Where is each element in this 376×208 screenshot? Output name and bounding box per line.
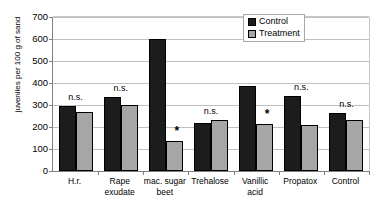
- legend-item[interactable]: Control: [248, 17, 300, 26]
- x-tick-mark: [234, 171, 235, 175]
- y-axis-tick-labels: 7006005004003002001000: [16, 0, 48, 208]
- bar-control: [284, 96, 301, 171]
- x-tick-mark: [188, 171, 189, 175]
- bar-chart: juveniles per 100 g of sand 700600500400…: [0, 0, 376, 208]
- legend-swatch-icon: [248, 30, 256, 38]
- bar-control: [59, 106, 76, 171]
- bar-treatment: [211, 120, 228, 171]
- bar-group: *: [143, 17, 188, 171]
- x-tick-mark: [369, 171, 370, 175]
- not-significant-label: n.s.: [324, 100, 369, 109]
- x-axis-tick-labels: H.r.Rape exudatemac. sugar beetTrehalose…: [52, 176, 368, 198]
- not-significant-label: n.s.: [279, 83, 324, 92]
- bar-treatment: [76, 112, 93, 171]
- y-tick-mark: [49, 17, 53, 18]
- x-tick-mark: [98, 171, 99, 175]
- bar-control: [149, 39, 166, 171]
- x-tick-label: mac. sugar beet: [142, 176, 187, 198]
- x-tick-label: Propatox: [278, 176, 323, 198]
- y-tick-mark: [49, 149, 53, 150]
- y-tick-label: 100: [18, 144, 48, 154]
- bar-group: n.s.: [53, 17, 98, 171]
- y-tick-mark: [49, 83, 53, 84]
- y-tick-label: 700: [18, 12, 48, 22]
- y-tick-mark: [49, 39, 53, 40]
- bar-group: n.s.: [188, 17, 233, 171]
- y-tick-label: 500: [18, 56, 48, 66]
- x-tick-label: Control: [323, 176, 368, 198]
- bar-control: [329, 113, 346, 171]
- legend-label: Treatment: [259, 29, 300, 38]
- legend-item[interactable]: Treatment: [248, 29, 300, 38]
- y-tick-label: 400: [18, 78, 48, 88]
- x-tick-label: Rape exudate: [97, 176, 142, 198]
- bar-treatment: [256, 124, 273, 171]
- bar-treatment: [301, 125, 318, 171]
- bar-treatment: [121, 105, 138, 171]
- not-significant-label: n.s.: [53, 93, 98, 102]
- x-tick-mark: [324, 171, 325, 175]
- y-tick-mark: [49, 127, 53, 128]
- y-tick-label: 300: [18, 100, 48, 110]
- x-tick-mark: [143, 171, 144, 175]
- bar-group: n.s.: [98, 17, 143, 171]
- y-tick-mark: [49, 105, 53, 106]
- bar-control: [239, 86, 256, 171]
- bar-control: [104, 97, 121, 171]
- bar-group: n.s.: [324, 17, 369, 171]
- y-tick-mark: [49, 61, 53, 62]
- bar-control: [194, 123, 211, 171]
- not-significant-label: n.s.: [188, 107, 233, 116]
- y-tick-mark: [49, 171, 53, 172]
- y-tick-label: 200: [18, 122, 48, 132]
- x-tick-label: H.r.: [52, 176, 97, 198]
- bar-treatment: [166, 141, 183, 171]
- bar-groups: n.s.n.s.*n.s.*n.s.n.s.: [53, 17, 369, 171]
- x-tick-mark: [279, 171, 280, 175]
- legend: ControlTreatment: [243, 14, 305, 42]
- plot-area: n.s.n.s.*n.s.*n.s.n.s.: [52, 17, 369, 172]
- y-tick-label: 0: [18, 166, 48, 176]
- not-significant-label: n.s.: [98, 84, 143, 93]
- legend-swatch-icon: [248, 18, 256, 26]
- legend-label: Control: [259, 17, 288, 26]
- y-tick-label: 600: [18, 34, 48, 44]
- plot-right-border: [369, 17, 370, 171]
- x-tick-label: Trehalose: [187, 176, 232, 198]
- x-tick-label: Vanillic acid: [233, 176, 278, 198]
- bar-treatment: [346, 120, 363, 171]
